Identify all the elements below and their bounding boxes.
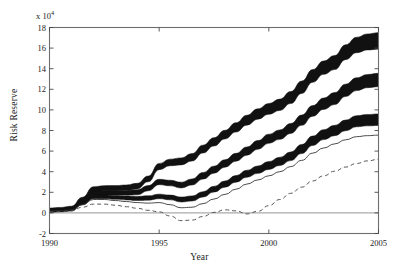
y-axis-multiplier-exponent: 4 [51,9,54,16]
y-tick-label-4: 4 [18,167,46,176]
y-tick-label-6: 6 [18,147,46,156]
y-tick-label-16: 16 [18,44,46,53]
y-tick-label-14: 14 [18,64,46,73]
y-tick-label--2: -2 [18,229,46,238]
x-tick-label-2005: 2005 [370,239,387,248]
y-tick-label-12: 12 [18,85,46,94]
y-tick-label-10: 10 [18,106,46,115]
x-axis-title: Year [0,252,399,262]
x-tick-label-1995: 1995 [151,239,168,248]
y-tick-label-0: 0 [18,209,46,218]
x-tick-label-2000: 2000 [260,239,277,248]
x-tick-label-1990: 1990 [41,239,58,248]
y-axis-multiplier-base: x 10 [36,11,51,21]
risk-reserve-chart-figure: x 104 Risk Reserve Year -202468101214161… [0,0,399,273]
y-tick-label-2: 2 [18,188,46,197]
y-tick-label-18: 18 [18,23,46,32]
y-tick-label-8: 8 [18,126,46,135]
chart-plot-area [0,0,399,273]
y-axis-multiplier-label: x 104 [36,9,54,21]
